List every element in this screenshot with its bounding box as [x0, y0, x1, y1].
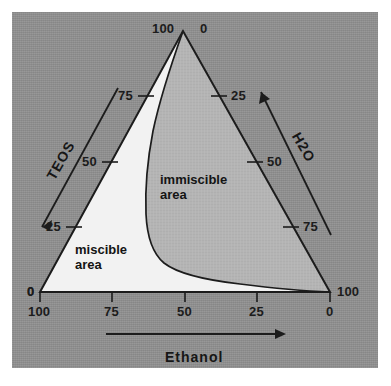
immiscible-area-label-line1: immiscible [160, 172, 227, 187]
ethanol-axis-arrow [106, 329, 286, 339]
bottom-tick-label-50: 50 [177, 305, 192, 318]
bottom-axis-ticks [40, 292, 330, 302]
immiscible-area-label-line2: area [160, 187, 227, 202]
bottom-tick-label-75: 75 [104, 305, 119, 318]
left-tick-label-25: 25 [46, 220, 61, 233]
bottom-tick-label-25: 25 [249, 305, 264, 318]
bottom-tick-label-0: 0 [326, 305, 333, 318]
figure-root: 100 0 0 100 100 75 50 25 0 75 50 25 0 25… [0, 0, 391, 386]
apex-label-right: 0 [200, 22, 207, 35]
axis-label-ethanol: Ethanol [165, 350, 223, 364]
left-corner-label-0: 0 [27, 285, 34, 298]
left-tick-label-50: 50 [82, 155, 97, 168]
miscible-area-label: miscible area [75, 242, 127, 272]
right-tick-label-75: 75 [303, 220, 318, 233]
right-tick-label-50: 50 [267, 155, 282, 168]
right-tick-label-25: 25 [231, 89, 246, 102]
apex-label-left: 100 [152, 22, 174, 35]
miscible-area-label-line2: area [75, 257, 127, 272]
left-tick-label-75: 75 [118, 89, 133, 102]
immiscible-area-label: immiscible area [160, 172, 227, 202]
bottom-right-corner-label: 100 [337, 285, 359, 298]
bottom-tick-label-100: 100 [28, 305, 50, 318]
miscible-area-label-line1: miscible [75, 242, 127, 257]
